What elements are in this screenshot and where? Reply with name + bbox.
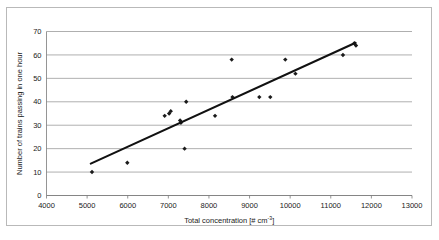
data-point: [268, 95, 272, 99]
x-tick-label-7000: 7000: [160, 201, 177, 210]
scatter-chart: 010203040506070 400050006000700080009000…: [0, 0, 439, 240]
y-tick-label-60: 60: [33, 51, 41, 60]
data-point: [229, 57, 233, 61]
data-point: [213, 114, 217, 118]
x-tick-label-5000: 5000: [79, 201, 96, 210]
data-point: [182, 146, 186, 150]
y-tick-label-50: 50: [33, 74, 41, 83]
data-point: [90, 170, 94, 174]
y-axis-tick-labels: 010203040506070: [33, 27, 41, 200]
data-point: [257, 95, 261, 99]
x-tick-label-10000: 10000: [280, 201, 301, 210]
x-tick-label-13000: 13000: [402, 201, 423, 210]
y-tick-label-0: 0: [37, 191, 41, 200]
x-tick-label-9000: 9000: [241, 201, 258, 210]
x-tick-label-11000: 11000: [321, 201, 341, 210]
x-axis-tick-labels: 4000500060007000800090001000011000120001…: [38, 201, 422, 210]
chart-svg: 010203040506070 400050006000700080009000…: [0, 0, 439, 240]
x-tick-label-4000: 4000: [38, 201, 55, 210]
y-axis-title: Number of trains passing in one hour: [15, 52, 24, 175]
data-point: [283, 57, 287, 61]
figure-container: 010203040506070 400050006000700080009000…: [0, 0, 439, 240]
x-tick-label-12000: 12000: [361, 201, 382, 210]
gridline-group: [47, 32, 413, 196]
y-tick-label-40: 40: [33, 97, 41, 106]
y-tick-label-10: 10: [33, 168, 41, 177]
x-axis-title: Total concentration [# cm-3]: [184, 215, 274, 225]
trendline: [91, 43, 356, 164]
data-point: [162, 114, 166, 118]
y-tick-label-30: 30: [33, 121, 41, 130]
y-tick-label-70: 70: [33, 27, 41, 36]
x-axis-title-main: Total concentration [# cm: [184, 216, 267, 225]
data-point: [293, 71, 297, 75]
y-tick-label-20: 20: [33, 144, 41, 153]
x-axis-tick-marks: [47, 196, 413, 199]
x-tick-label-6000: 6000: [119, 201, 136, 210]
x-tick-label-8000: 8000: [201, 201, 218, 210]
data-point: [341, 53, 345, 57]
data-point: [184, 100, 188, 104]
x-axis-title-tail: ]: [272, 216, 274, 225]
data-point: [125, 161, 129, 165]
